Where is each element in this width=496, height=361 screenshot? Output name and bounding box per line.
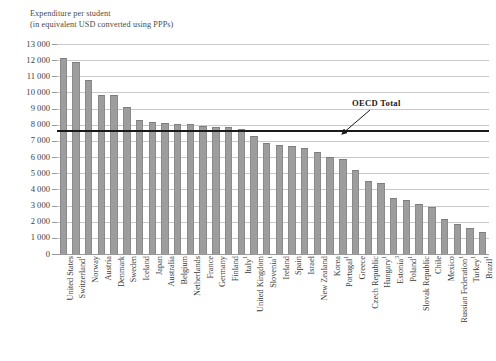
x-axis-label: Portugal1 (346, 256, 355, 287)
x-axis-label: Estonia3 (397, 256, 406, 284)
oecd-total-reference-line (57, 130, 489, 132)
y-tick-mark-10000 (52, 92, 57, 93)
bar (454, 224, 461, 254)
x-axis-label: Russian Federation1 (461, 256, 470, 323)
x-axis-label: France (207, 256, 216, 279)
x-axis-label-text: Australia (167, 256, 176, 286)
bar-series (57, 44, 489, 254)
y-tick-label-5000: 5 000 (4, 168, 50, 178)
x-axis-label-text: Denmark (117, 256, 126, 287)
y-tick-label-2000: 2 000 (4, 216, 50, 226)
chart-title: Expenditure per student (in equivalent U… (30, 9, 173, 30)
x-axis-label-footnote: 1 (77, 256, 83, 259)
x-axis-label-text: Italy (244, 259, 253, 274)
x-axis-label: Australia (168, 256, 177, 286)
bar (250, 136, 257, 254)
y-tick-mark-0 (52, 254, 57, 255)
x-axis-label-text: Ireland (282, 256, 291, 280)
x-axis-label: Netherlands (194, 256, 203, 296)
bar (365, 181, 372, 254)
bar (123, 107, 130, 254)
y-tick-mark-13000 (52, 44, 57, 45)
x-axis-label-text: Portugal (345, 259, 354, 287)
x-axis-label-text: New Zealand (320, 256, 329, 300)
x-axis-label-text: Brazil (485, 259, 494, 279)
bar (390, 198, 397, 254)
x-axis-label-text: France (206, 256, 215, 279)
y-tick-label-12000: 12 000 (4, 55, 50, 65)
x-axis-label-text: Switzerland (78, 259, 87, 299)
y-tick-mark-8000 (52, 125, 57, 126)
expenditure-per-student-chart: Expenditure per student (in equivalent U… (0, 0, 496, 361)
y-tick-mark-2000 (52, 222, 57, 223)
bar (301, 148, 308, 254)
y-tick-mark-4000 (52, 189, 57, 190)
bar (377, 183, 384, 254)
x-axis-label: Slovenia1 (270, 256, 279, 288)
x-axis-label-text: Israel (307, 256, 316, 274)
y-tick-label-3000: 3 000 (4, 200, 50, 210)
x-axis-label-text: Korea (333, 256, 342, 276)
bar (288, 146, 295, 254)
x-axis-category-labels: United StatesSwitzerland1NorwayAustriaDe… (57, 256, 489, 361)
x-axis-label-footnote: 1 (407, 256, 413, 259)
bar (98, 95, 105, 254)
bar (326, 157, 333, 254)
x-axis-label-footnote: 1 (267, 256, 273, 259)
x-axis-label-footnote: 1 (471, 256, 477, 259)
x-axis-label: Poland1 (410, 256, 419, 282)
bar (428, 207, 435, 254)
x-axis-label: United Kingdom (257, 256, 266, 312)
x-axis-label: Hungary1 (384, 256, 393, 288)
x-axis-label-text: Netherlands (193, 256, 202, 296)
x-axis-label: Switzerland1 (79, 256, 88, 298)
bar (466, 228, 473, 254)
y-tick-mark-6000 (52, 157, 57, 158)
x-axis-label-text: Slovak Republic (422, 256, 431, 311)
x-axis-label-text: Mexico (447, 256, 456, 281)
bar (314, 152, 321, 254)
x-axis-label-text: Turkey (472, 259, 481, 283)
y-tick-label-7000: 7 000 (4, 135, 50, 145)
x-axis-label: Spain (295, 256, 304, 275)
x-axis-label: Belgium (181, 256, 190, 285)
x-axis-label: Germany (219, 256, 228, 287)
x-axis-label: Denmark (118, 256, 127, 287)
bar (110, 95, 117, 254)
x-axis-label-text: Austria (104, 256, 113, 280)
x-axis-label: Japan (156, 256, 165, 275)
x-axis-label: Iceland (143, 256, 152, 280)
bar (415, 204, 422, 254)
x-axis-label-text: Norway (91, 256, 100, 283)
bar (136, 120, 143, 254)
x-axis-label: Turkey1 (473, 256, 482, 282)
x-axis-label: Brazil1 (486, 256, 495, 279)
bar (72, 62, 79, 254)
x-axis-label-text: Hungary (383, 259, 392, 288)
bar (339, 159, 346, 254)
x-axis-label-text: Estonia (396, 259, 405, 284)
bar (85, 80, 92, 254)
x-axis-label-text: Slovenia (269, 259, 278, 288)
x-axis-label-text: Iceland (142, 256, 151, 280)
x-axis-label: Czech Republic (372, 256, 381, 309)
y-tick-mark-1000 (52, 238, 57, 239)
y-tick-label-4000: 4 000 (4, 184, 50, 194)
y-tick-mark-7000 (52, 141, 57, 142)
bar (199, 126, 206, 254)
x-axis-label: Slovak Republic (423, 256, 432, 311)
x-axis-label-footnote: 1 (458, 256, 464, 259)
bar (238, 129, 245, 254)
x-axis-label-text: Chile (434, 256, 443, 274)
x-axis-label-text: Czech Republic (371, 256, 380, 309)
x-axis-label: Korea (334, 256, 343, 276)
x-axis-label-text: Germany (218, 256, 227, 287)
y-tick-label-13000: 13 000 (4, 39, 50, 49)
x-axis-label: New Zealand (321, 256, 330, 300)
x-axis-label-footnote: 3 (394, 256, 400, 259)
bar (479, 232, 486, 254)
y-tick-mark-3000 (52, 206, 57, 207)
y-tick-label-9000: 9 000 (4, 103, 50, 113)
x-axis-label-text: United States (66, 256, 75, 300)
bar (174, 124, 181, 254)
